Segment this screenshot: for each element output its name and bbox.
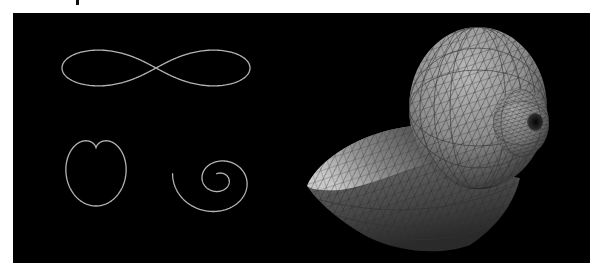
lemniscate-curve [62, 50, 250, 86]
figure-canvas [13, 13, 590, 263]
figure-panel [13, 13, 590, 263]
cardioid-curve [66, 141, 126, 206]
cropped-glyph-mark [76, 0, 79, 5]
spiral-curve [173, 161, 248, 212]
seashell-surface [300, 25, 552, 260]
shell-apex [527, 113, 543, 131]
